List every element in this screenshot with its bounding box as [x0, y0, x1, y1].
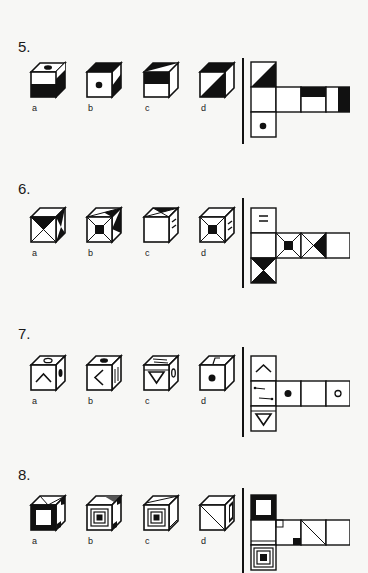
cube-icon — [84, 60, 128, 102]
option-label: d — [201, 103, 206, 113]
cube-net — [250, 206, 350, 286]
cube-net — [250, 493, 350, 573]
option-label: b — [88, 536, 93, 546]
cube-icon — [28, 205, 72, 247]
cube-net — [250, 354, 350, 434]
problem-number: 5. — [18, 38, 31, 55]
option-c[interactable]: c — [141, 493, 185, 545]
problem-number: 7. — [18, 325, 31, 342]
option-label: b — [88, 248, 93, 258]
option-d[interactable]: d — [197, 60, 241, 112]
option-label: d — [201, 248, 206, 258]
cube-icon — [197, 493, 241, 535]
option-label: c — [145, 396, 150, 406]
option-c[interactable]: c — [141, 205, 185, 257]
option-label: a — [32, 248, 37, 258]
cube-icon — [141, 205, 185, 247]
cube-icon — [197, 353, 241, 395]
option-b[interactable]: b — [84, 353, 128, 405]
divider — [242, 198, 244, 288]
option-label: a — [32, 396, 37, 406]
option-d[interactable]: d — [197, 205, 241, 257]
option-label: a — [32, 103, 37, 113]
cube-icon — [84, 493, 128, 535]
option-label: c — [145, 536, 150, 546]
divider — [242, 488, 244, 573]
cube-icon — [28, 353, 72, 395]
option-b[interactable]: b — [84, 205, 128, 257]
cube-icon — [84, 353, 128, 395]
cube-icon — [84, 205, 128, 247]
option-label: b — [88, 396, 93, 406]
option-a[interactable]: a — [28, 493, 72, 545]
option-a[interactable]: a — [28, 353, 72, 405]
option-a[interactable]: a — [28, 205, 72, 257]
cube-icon — [141, 353, 185, 395]
option-c[interactable]: c — [141, 353, 185, 405]
divider — [242, 347, 244, 437]
cube-icon — [28, 60, 72, 102]
divider — [242, 58, 244, 144]
option-d[interactable]: d — [197, 353, 241, 405]
option-label: d — [201, 536, 206, 546]
option-label: b — [88, 103, 93, 113]
cube-icon — [28, 493, 72, 535]
option-label: a — [32, 536, 37, 546]
cube-icon — [141, 60, 185, 102]
option-d[interactable]: d — [197, 493, 241, 545]
option-label: d — [201, 396, 206, 406]
cube-icon — [141, 493, 185, 535]
cube-net — [250, 60, 350, 140]
problem-number: 8. — [18, 466, 31, 483]
problem-number: 6. — [18, 180, 31, 197]
option-b[interactable]: b — [84, 493, 128, 545]
option-c[interactable]: c — [141, 60, 185, 112]
option-label: c — [145, 103, 150, 113]
option-b[interactable]: b — [84, 60, 128, 112]
cube-icon — [197, 60, 241, 102]
cube-icon — [197, 205, 241, 247]
option-label: c — [145, 248, 150, 258]
option-a[interactable]: a — [28, 60, 72, 112]
